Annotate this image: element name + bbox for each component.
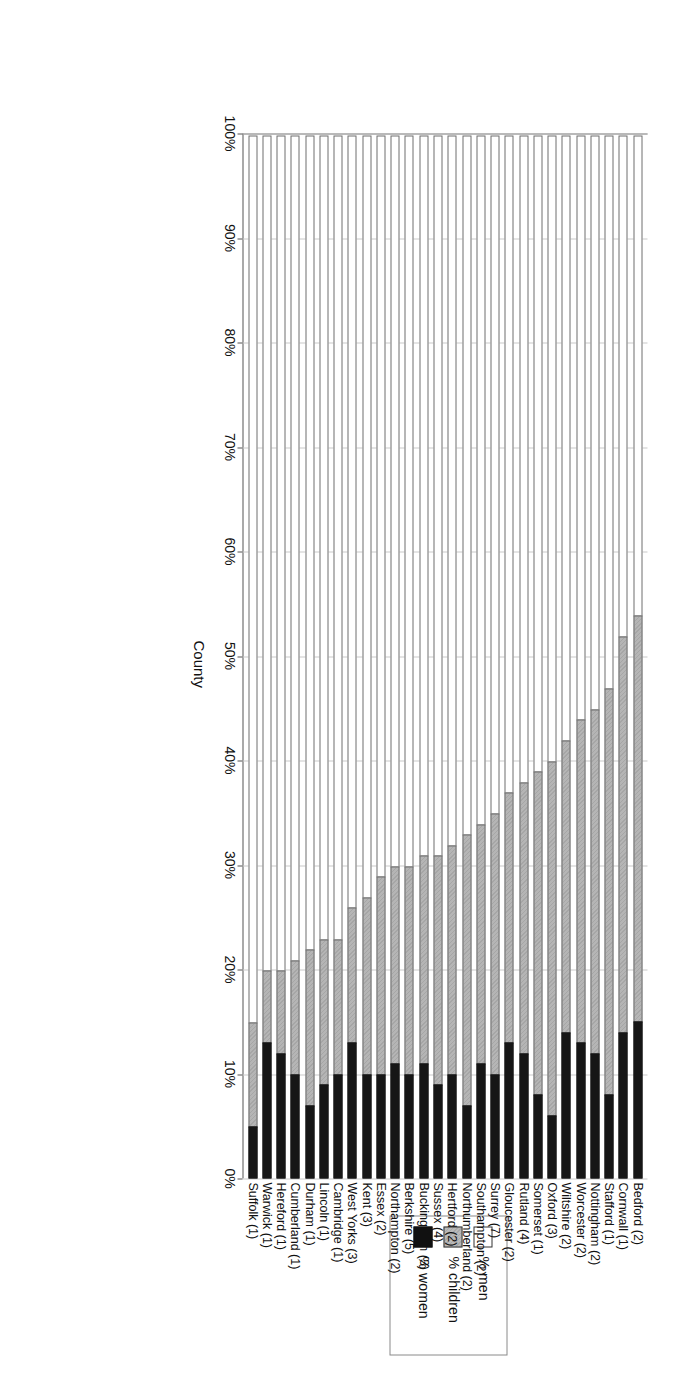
category-label: Northampton (2) [388,1182,402,1273]
bar-segment-women [462,1105,471,1178]
bar-segment-children [404,866,413,1075]
bar-row [490,133,499,1178]
bar-row [347,133,356,1178]
bar-row [576,133,585,1178]
bar-segment-children [618,636,627,1033]
bar-segment-children [576,719,585,1043]
bar-segment-men [419,135,428,856]
bar-row [404,133,413,1178]
bar-segment-women [504,1042,513,1178]
bar-segment-men [490,135,499,814]
bar-row [376,133,385,1178]
bar-segment-men [290,135,299,961]
bar-segment-children [419,855,428,1064]
bar-segment-children [633,615,642,1023]
legend-label-children: % children [445,1256,461,1322]
bar-row [547,133,556,1178]
value-tick-label: 0% [221,1168,237,1188]
bar-segment-men [305,135,314,950]
bar-segment-men [476,135,485,825]
bar-row [433,133,442,1178]
bar-row [447,133,456,1178]
bar-row [276,133,285,1178]
bar-segment-children [319,939,328,1085]
bar-segment-women [533,1094,542,1178]
bar-segment-children [590,709,599,1054]
bar-row [262,133,271,1178]
category-label: Oxford (3) [545,1182,559,1238]
bar-segment-women [362,1074,371,1179]
bar-segment-men [333,135,342,940]
value-tick-label: 80% [221,328,237,356]
bar-segment-children [490,813,499,1074]
bar-row [248,133,257,1178]
bar-segment-women [576,1042,585,1178]
bar-row [533,133,542,1178]
bar-segment-women [419,1063,428,1178]
bar-segment-children [347,907,356,1043]
bar-segment-women [590,1053,599,1178]
bar-segment-women [433,1084,442,1178]
value-tick-label: 90% [221,223,237,251]
bar-row [390,133,399,1178]
bar-segment-women [390,1063,399,1178]
bar-segment-women [305,1105,314,1178]
bar-row [604,133,613,1178]
category-label: Rutland (4) [517,1182,531,1244]
category-label: Cambridge (1) [331,1182,345,1262]
bar-segment-men [248,135,257,1023]
bar-segment-children [376,876,385,1075]
category-label: Durham (1) [303,1182,317,1245]
bar-segment-men [404,135,413,867]
category-label: Buckingham (3) [417,1182,431,1270]
category-label: Hertford (2) [445,1182,459,1246]
bar-segment-men [519,135,528,783]
bar-row [561,133,570,1178]
value-tick-label: 100% [221,115,237,151]
bar-segment-children [248,1022,257,1127]
bar-segment-women [604,1094,613,1178]
bar-segment-women [519,1053,528,1178]
bar-segment-women [447,1074,456,1179]
bar-segment-women [333,1074,342,1179]
bar-row [419,133,428,1178]
bar-segment-men [362,135,371,898]
bar-segment-women [561,1032,570,1178]
bar-segment-men [433,135,442,856]
bar-row [633,133,642,1178]
category-label: Surrey (7) [488,1182,502,1238]
bar-row [362,133,371,1178]
bar-segment-men [618,135,627,637]
bar-segment-children [362,897,371,1075]
value-tick-label: 60% [221,537,237,565]
bar-segment-women [490,1074,499,1179]
bar-segment-men [533,135,542,772]
value-tick-label: 30% [221,850,237,878]
category-label: Wiltshire (2) [559,1182,573,1249]
value-tick-label: 40% [221,746,237,774]
bar-segment-women [376,1074,385,1179]
bar-row [519,133,528,1178]
category-label: Cornwall (1) [616,1182,630,1249]
bar-segment-men [547,135,556,762]
category-label: Berkshire (5) [402,1182,416,1254]
bar-row [476,133,485,1178]
bar-segment-men [462,135,471,835]
category-label: Lincoln (1) [317,1182,331,1240]
bar-segment-men [590,135,599,710]
bar-segment-women [618,1032,627,1178]
bar-segment-men [633,135,642,616]
bar-segment-women [476,1063,485,1178]
bar-segment-children [305,949,314,1106]
bar-segment-children [433,855,442,1085]
bar-segment-men [504,135,513,793]
bar-segment-children [447,845,456,1075]
value-tick-label: 20% [221,955,237,983]
category-label: Gloucester (2) [502,1182,516,1261]
category-label: Suffolk (1) [246,1182,260,1239]
bar-segment-men [376,135,385,877]
bar-row [305,133,314,1178]
bar-segment-men [276,135,285,971]
category-label: Stafford (1) [602,1182,616,1244]
bar-segment-children [462,834,471,1106]
